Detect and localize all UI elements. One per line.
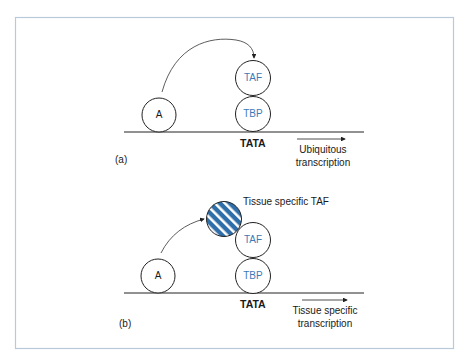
tata-label-a: TATA [240,137,266,149]
taf-label-b: TAF [235,234,271,245]
tbp-label-b: TBP [235,270,271,281]
transcription-diagram: A TAF TBP TATA Ubiquitous transcription … [0,0,476,360]
outcome-line1-b: Tissue specific [287,305,363,316]
outcome-line1-a: Ubiquitous [290,144,356,155]
outcome-line2-a: transcription [290,157,356,168]
activator-label-b: A [140,270,176,281]
figure-frame [16,18,454,349]
tata-label-b: TATA [240,298,266,310]
tbp-label-a: TBP [235,108,271,119]
taf-label-a: TAF [235,72,271,83]
panel-label-a: (a) [115,154,127,165]
diagram-graphics [0,0,476,360]
panel-label-b: (b) [119,318,131,329]
outcome-line2-b: transcription [287,318,363,329]
activator-label-a: A [141,109,177,120]
tissue-specific-taf-circle [207,202,242,237]
tissue-taf-label: Tissue specific TAF [243,196,329,207]
